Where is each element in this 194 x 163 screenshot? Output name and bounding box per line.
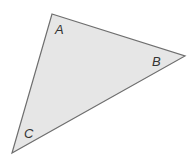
vertex-label-b: B: [152, 54, 161, 69]
triangle-abc: [12, 14, 185, 153]
triangle-diagram: A B C: [0, 0, 194, 163]
vertex-label-a: A: [54, 22, 64, 37]
vertex-label-c: C: [24, 126, 34, 141]
